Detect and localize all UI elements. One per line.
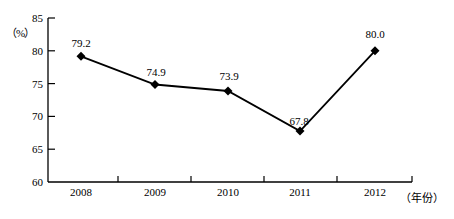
data-value-label: 79.2: [71, 37, 90, 49]
data-value-label: 67.8: [289, 115, 309, 127]
y-tick-label: 70: [32, 110, 44, 122]
x-axis-title: （年份）: [400, 189, 444, 205]
y-tick-label: 80: [32, 45, 44, 57]
line-chart: （%） 85 80 75 70 65 60: [0, 0, 454, 219]
x-tick-label: 2008: [70, 186, 93, 198]
data-value-labels: 79.2 74.9 73.9 67.8 80.0: [71, 28, 385, 127]
x-tick-label: 2011: [289, 186, 311, 198]
data-point-marker: [151, 80, 160, 89]
y-axis-ticks: [48, 18, 55, 149]
data-point-marker: [77, 52, 86, 61]
data-point-markers: [77, 46, 380, 135]
chart-plot-area: 85 80 75 70 65 60 2008 2009 2010 2011 20…: [0, 0, 454, 219]
y-tick-label: 65: [32, 143, 44, 155]
y-axis-tick-labels: 85 80 75 70 65 60: [32, 12, 44, 188]
data-value-label: 73.9: [219, 70, 239, 82]
x-tick-label: 2009: [144, 186, 167, 198]
x-tick-label: 2012: [364, 186, 386, 198]
y-tick-label: 85: [32, 12, 44, 24]
data-value-label: 74.9: [146, 66, 166, 78]
x-tick-label: 2010: [217, 186, 240, 198]
y-tick-label: 60: [32, 176, 44, 188]
data-value-label: 80.0: [365, 28, 385, 40]
data-point-marker: [224, 87, 233, 96]
x-axis-ticks: [118, 176, 412, 182]
x-axis-tick-labels: 2008 2009 2010 2011 2012: [70, 186, 386, 198]
y-tick-label: 75: [32, 78, 44, 90]
